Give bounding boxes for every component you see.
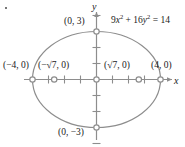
bottom-vertex-label: (0, −3) — [58, 128, 84, 138]
y-axis-label: y — [92, 2, 96, 12]
equation-exp-y: 2 — [147, 13, 150, 20]
x-axis-arrowhead — [167, 77, 172, 82]
marker-left-focus — [52, 77, 57, 82]
right-vertex-label: (4, 0) — [151, 61, 172, 71]
equation-plus: + — [126, 15, 131, 25]
x-axis-label: x — [174, 76, 178, 86]
marker-top-vertex — [94, 29, 99, 34]
top-vertex-label: (0, 3) — [64, 17, 85, 27]
marker-right-focus — [136, 77, 141, 82]
equation-rhs: = 14 — [153, 15, 170, 25]
equation-exp-x: 2 — [120, 13, 123, 20]
left-focus-label: (−√7, 0) — [38, 61, 69, 71]
equation-coef-y: 16 — [133, 15, 143, 25]
right-focus-label: (√7, 0) — [104, 61, 130, 71]
marker-origin — [94, 77, 99, 82]
ellipse-figure: (−4, 0) (−√7, 0) (√7, 0) (4, 0) (0, 3) (… — [0, 0, 185, 147]
marker-right-vertex — [158, 77, 163, 82]
y-axis-arrowhead — [94, 12, 99, 17]
equation-annotation: 9x2 + 16y2 = 14 — [111, 16, 170, 26]
left-vertex-label: (−4, 0) — [3, 61, 29, 71]
marker-bottom-vertex — [94, 125, 99, 130]
marker-left-vertex — [30, 77, 35, 82]
